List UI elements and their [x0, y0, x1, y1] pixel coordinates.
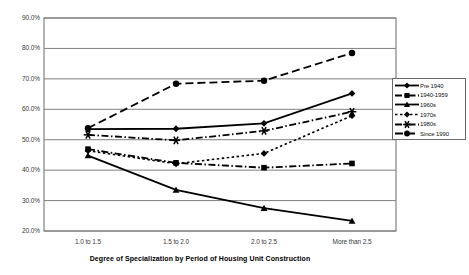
legend-key-icon	[394, 91, 420, 100]
legend-item-pre-1940[interactable]: Pre 1940	[394, 81, 464, 91]
legend-label: 1970s	[420, 112, 436, 118]
y-axis-tick-80: 80.0%	[0, 44, 40, 51]
y-axis-tick-40: 40.0%	[0, 166, 40, 173]
legend-label: Pre 1940	[420, 83, 444, 89]
legend-item-1960s[interactable]: 1960s	[394, 100, 464, 110]
x-axis-title: Degree of Specialization by Period of Ho…	[0, 255, 400, 262]
legend-key-icon	[394, 81, 420, 90]
y-axis-tick-50: 50.0%	[0, 136, 40, 143]
legend-item-1970s[interactable]: 1970s	[394, 110, 464, 120]
x-axis-tick-3: More than 2.5	[307, 238, 397, 245]
legend-label: 1940-1959	[420, 92, 448, 98]
y-axis-tick-90: 90.0%	[0, 14, 40, 21]
y-axis-tick-70: 70.0%	[0, 75, 40, 82]
legend-key-icon	[394, 110, 420, 119]
legend-item-1980s[interactable]: 1980s	[394, 119, 464, 129]
legend-key-icon	[394, 100, 420, 109]
y-axis-tick-60: 60.0%	[0, 105, 40, 112]
legend-item-1940-1959[interactable]: 1940-1959	[394, 91, 464, 101]
x-axis-tick-2: 2.0 to 2.5	[219, 238, 309, 245]
chart-container: Degree of Specialization by Period of Ho…	[0, 0, 469, 275]
y-axis-tick-30: 30.0%	[0, 197, 40, 204]
legend-label: 1980s	[420, 121, 436, 127]
legend-label: 1960s	[420, 102, 436, 108]
y-axis-tick-20: 20.0%	[0, 227, 40, 234]
legend-item-since-1990[interactable]: Since 1990	[394, 129, 464, 139]
legend-label: Since 1990	[420, 131, 449, 137]
x-axis-tick-1: 1.5 to 2.0	[131, 238, 221, 245]
legend-key-icon	[394, 129, 420, 138]
chart-legend: Pre 19401940-19591960s1970s1980sSince 19…	[392, 78, 466, 140]
legend-key-icon	[394, 120, 420, 129]
x-axis-tick-0: 1.0 to 1.5	[43, 238, 133, 245]
